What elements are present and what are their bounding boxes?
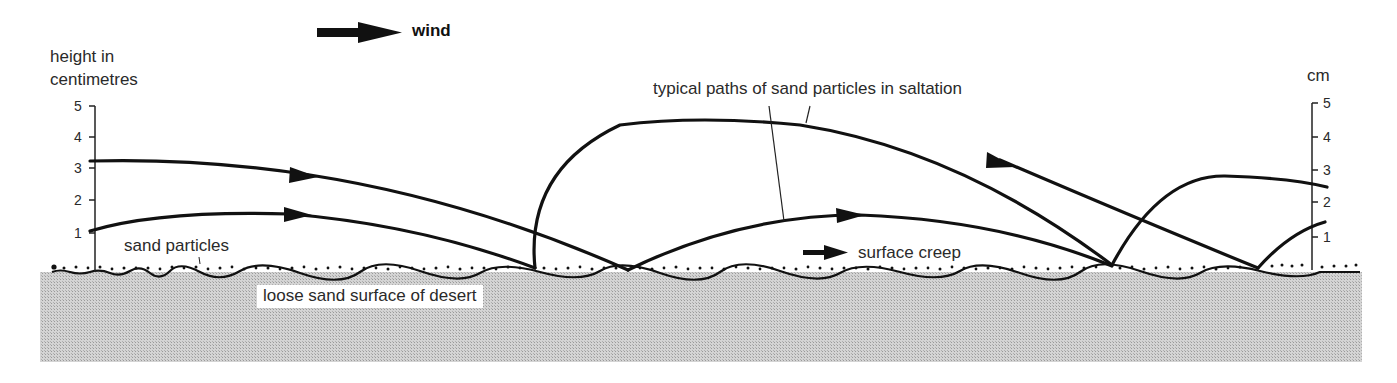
arrowhead-d <box>836 208 865 223</box>
surface-creep-arrow-icon <box>803 245 848 260</box>
right-axis-label: cm <box>1307 67 1330 84</box>
right-tick-2: 2 <box>1323 195 1331 209</box>
saltation-label: typical paths of sand particles in salta… <box>653 80 962 97</box>
arrowhead-b <box>284 207 312 222</box>
left-tick-3: 3 <box>74 161 82 175</box>
left-axis-label-line2: centimetres <box>50 71 138 88</box>
right-tick-3: 3 <box>1323 163 1331 177</box>
right-tick-1: 1 <box>1323 230 1331 244</box>
diagram-canvas <box>0 0 1397 383</box>
saltation-path-g <box>1258 222 1325 268</box>
sand-particles-leader <box>199 257 200 264</box>
wind-arrow-icon <box>317 22 402 43</box>
right-tick-5: 5 <box>1323 96 1331 110</box>
right-tick-4: 4 <box>1323 130 1331 144</box>
ground-label: loose sand surface of desert <box>257 285 483 308</box>
left-tick-1: 1 <box>74 226 82 240</box>
saltation-paths <box>90 120 1327 270</box>
surface-creep-label: surface creep <box>858 244 961 261</box>
left-axis <box>89 106 95 272</box>
wind-label: wind <box>412 22 451 39</box>
left-tick-5: 5 <box>74 99 82 113</box>
saltation-path-c <box>534 120 1112 268</box>
left-tick-2: 2 <box>74 193 82 207</box>
left-tick-4: 4 <box>74 130 82 144</box>
sand-particles-label: sand particles <box>124 237 229 254</box>
right-axis <box>1312 103 1318 270</box>
path-arrowheads <box>284 152 1015 223</box>
left-axis-label-line1: height in <box>50 48 114 65</box>
arrowhead-c <box>986 152 1015 168</box>
desert-ground <box>40 272 1362 362</box>
